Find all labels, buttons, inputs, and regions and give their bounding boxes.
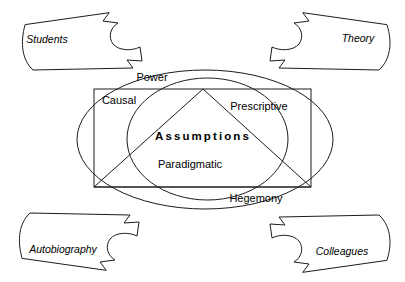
label-paradigmatic: Paradigmatic	[158, 158, 223, 170]
callout-label-students: Students	[26, 33, 68, 45]
label-hegemony: Hegemony	[229, 192, 283, 204]
diagram-canvas: Power Causal Prescriptive Assumptions Pa…	[0, 0, 405, 282]
callout-shape-autobiography	[19, 213, 139, 270]
label-assumptions: Assumptions	[155, 130, 251, 142]
callout-label-colleagues: Colleagues	[316, 245, 369, 257]
callout-label-autobiography: Autobiography	[28, 243, 97, 255]
label-causal: Causal	[102, 94, 136, 106]
callout-label-theory: Theory	[342, 32, 375, 44]
label-power: Power	[136, 71, 168, 83]
label-prescriptive: Prescriptive	[230, 100, 287, 112]
callout-shape-colleagues	[270, 215, 390, 272]
assumptions-diagram: Power Causal Prescriptive Assumptions Pa…	[0, 0, 405, 282]
